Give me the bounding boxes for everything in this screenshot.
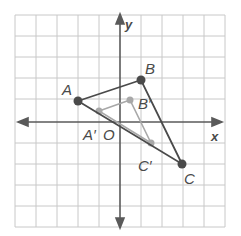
label-c-prime: C′ [138, 157, 153, 174]
label-b: B [145, 60, 155, 77]
coordinate-plane-figure: A B C A′ B′ C′ O x y [0, 0, 241, 236]
label-c: C [184, 170, 195, 187]
point-b-prime [127, 97, 134, 104]
point-c [178, 160, 187, 169]
coordinate-plane: A B C A′ B′ C′ O x y [0, 0, 241, 236]
x-axis-label: x [210, 129, 219, 144]
point-a [74, 97, 83, 106]
y-axis-label: y [124, 17, 133, 32]
label-a: A [61, 81, 72, 98]
y-axis [116, 14, 124, 228]
label-a-prime: A′ [82, 126, 97, 143]
label-b-prime: B′ [138, 95, 152, 112]
origin-label: O [103, 126, 115, 143]
